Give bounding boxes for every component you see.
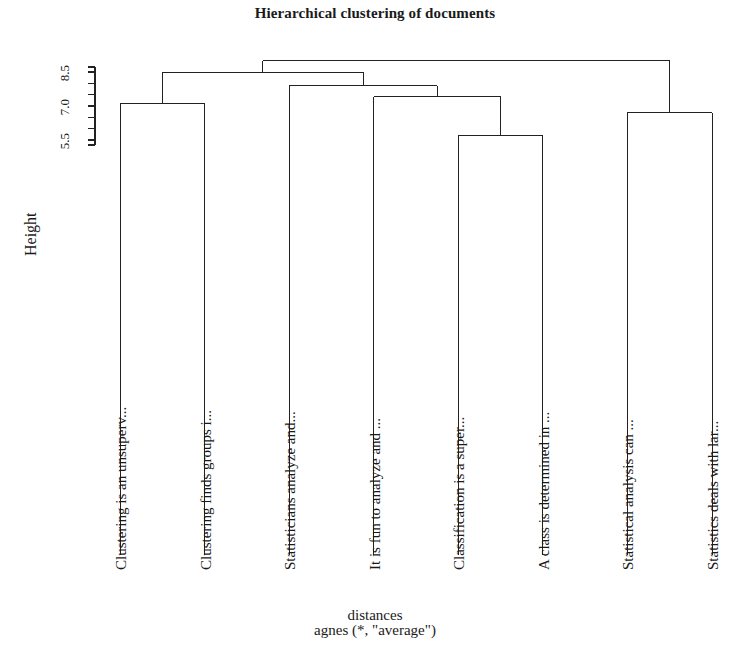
- leaf-label-3: It is fun to analyze and ...: [367, 418, 384, 570]
- leaf-label-2: Statisticians analyze and...: [282, 411, 299, 570]
- x-axis-sublabel: agnes (*, "average"): [0, 623, 750, 638]
- leaf-label-1: Clustering finds groups i...: [198, 410, 215, 570]
- dendrogram-plot: Hierarchical clustering of documents Hei…: [0, 0, 750, 659]
- leaf-label-4: Classification is a super...: [451, 417, 468, 570]
- x-axis-label: distances: [0, 608, 750, 623]
- leaf-label-6: Statistical analysis can ...: [620, 419, 637, 570]
- leaf-label-7: Statistics deals with lar...: [705, 421, 722, 570]
- leaf-label-0: Clustering is an unsuperv...: [113, 407, 130, 570]
- leaf-label-5: A class is determined in ...: [536, 412, 553, 570]
